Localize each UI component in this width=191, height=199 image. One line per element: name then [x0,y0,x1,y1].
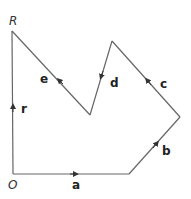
arrow-b-icon [153,143,157,148]
vector-c-label: c [160,77,167,91]
vector-c-line [112,41,180,117]
vector-r-line [12,31,13,174]
point-R-label: R [9,14,17,28]
vector-diagram: R O a b c d e r [0,0,191,199]
arrow-c-icon [147,80,151,85]
vector-d-line [90,41,112,115]
vector-a-label: a [72,178,80,192]
vector-r-label: r [21,102,27,116]
vector-b-label: b [162,144,171,158]
point-O-label: O [8,178,17,192]
vector-d-label: d [110,76,119,90]
vector-e-label: e [40,72,48,86]
